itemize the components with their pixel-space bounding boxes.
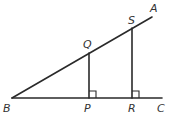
segment-ba — [12, 17, 152, 98]
label-p: P — [84, 102, 91, 115]
label-r: R — [128, 102, 136, 115]
right-angle-mark-r — [132, 91, 139, 98]
right-angle-mark-p — [89, 91, 96, 98]
label-q: Q — [83, 38, 92, 51]
label-s: S — [128, 14, 135, 27]
label-a: A — [149, 2, 158, 15]
label-b: B — [3, 102, 11, 115]
label-c: C — [157, 102, 165, 115]
geometry-diagram: A S Q B P R C — [0, 0, 171, 117]
